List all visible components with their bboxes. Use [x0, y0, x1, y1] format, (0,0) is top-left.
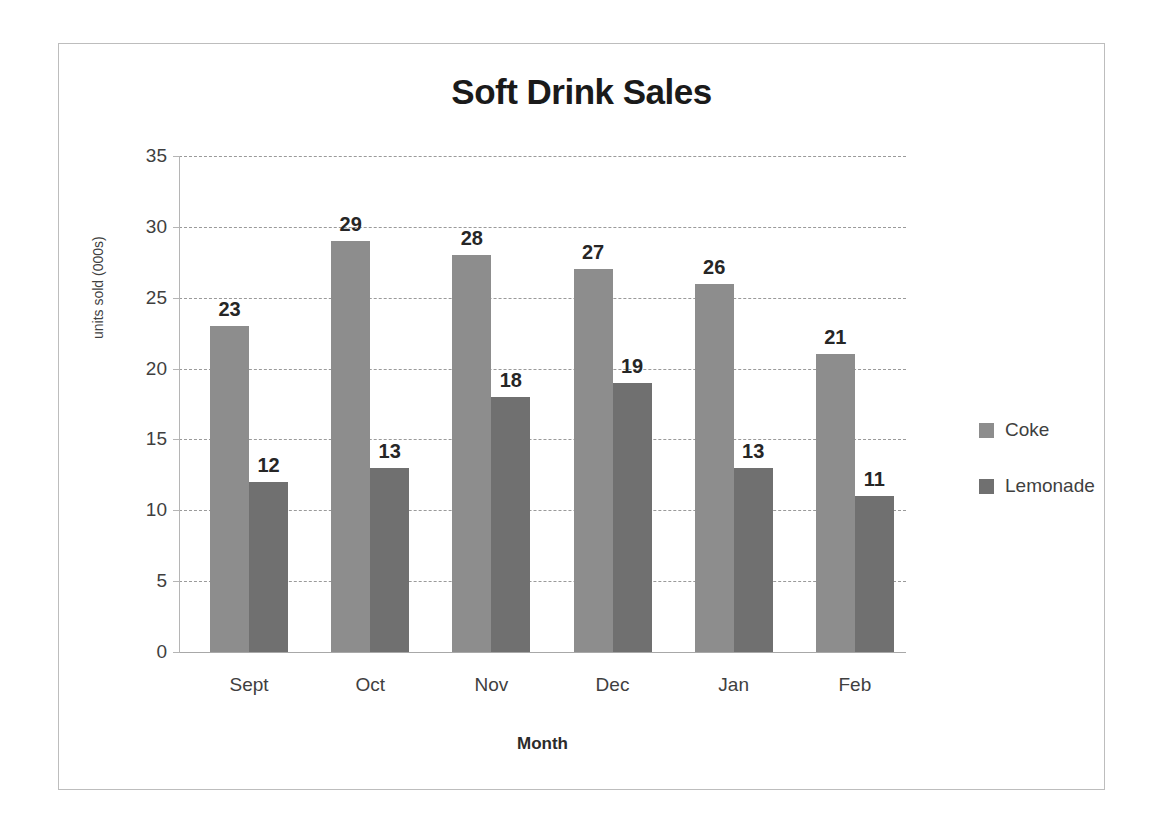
bar-group: 2719 — [543, 156, 664, 652]
chart-title: Soft Drink Sales — [59, 72, 1104, 112]
y-axis-tick-label: 30 — [146, 216, 167, 238]
legend-swatch-icon — [979, 479, 994, 494]
bar[interactable]: 21 — [816, 354, 855, 652]
bar-value-label: 21 — [824, 326, 846, 349]
bar[interactable]: 13 — [734, 468, 773, 652]
bar[interactable]: 18 — [491, 397, 530, 652]
bar-value-label: 19 — [621, 355, 643, 378]
bar-value-label: 13 — [379, 440, 401, 463]
y-axis-tick-label: 25 — [146, 287, 167, 309]
bar[interactable]: 26 — [695, 284, 734, 652]
x-axis-category-label: Sept — [229, 674, 268, 696]
bar[interactable]: 11 — [855, 496, 894, 652]
x-axis-category-label: Feb — [838, 674, 871, 696]
bar-group: 2913 — [300, 156, 421, 652]
x-axis-category-label: Jan — [718, 674, 749, 696]
y-axis-tick-label: 10 — [146, 499, 167, 521]
legend-item[interactable]: Lemonade — [979, 475, 1095, 497]
bar-group: 2111 — [785, 156, 906, 652]
x-axis-category-label: Dec — [596, 674, 630, 696]
bar-group: 2312 — [179, 156, 300, 652]
x-axis-title: Month — [179, 734, 906, 754]
bar[interactable]: 12 — [249, 482, 288, 652]
legend-label: Coke — [1005, 419, 1049, 441]
bar-group: 2818 — [421, 156, 542, 652]
y-axis-tick-label: 15 — [146, 428, 167, 450]
bar-group: 2613 — [664, 156, 785, 652]
legend-label: Lemonade — [1005, 475, 1095, 497]
bar-value-label: 12 — [257, 454, 279, 477]
bar-value-label: 26 — [703, 256, 725, 279]
y-axis-title: units sold (000s) — [90, 236, 106, 339]
bar-value-label: 28 — [461, 227, 483, 250]
plot-area: 35302520151050 231229132818271926132111 … — [179, 156, 906, 652]
bar[interactable]: 28 — [452, 255, 491, 652]
x-axis-category-label: Oct — [355, 674, 385, 696]
chart-frame: Soft Drink Sales units sold (000s) 35302… — [58, 43, 1105, 790]
bar-value-label: 18 — [500, 369, 522, 392]
bar-value-label: 13 — [742, 440, 764, 463]
gridline — [179, 652, 906, 653]
y-axis-tick-label: 0 — [156, 641, 167, 663]
x-axis-category-label: Nov — [474, 674, 508, 696]
bar[interactable]: 19 — [613, 383, 652, 652]
bar-value-label: 27 — [582, 241, 604, 264]
legend-swatch-icon — [979, 423, 994, 438]
y-axis-tick-label: 20 — [146, 358, 167, 380]
bar[interactable]: 27 — [574, 269, 613, 652]
bar-value-label: 29 — [340, 213, 362, 236]
bar[interactable]: 23 — [210, 326, 249, 652]
chart-legend: CokeLemonade — [979, 419, 1095, 531]
bar-value-label: 11 — [864, 468, 885, 491]
y-axis-tick-label: 5 — [156, 570, 167, 592]
bar[interactable]: 29 — [331, 241, 370, 652]
bar-value-label: 23 — [218, 298, 240, 321]
bar[interactable]: 13 — [370, 468, 409, 652]
bars-layer: 231229132818271926132111 — [179, 156, 906, 652]
legend-item[interactable]: Coke — [979, 419, 1095, 441]
y-axis-tick-label: 35 — [146, 145, 167, 167]
y-axis-tick — [173, 652, 180, 653]
